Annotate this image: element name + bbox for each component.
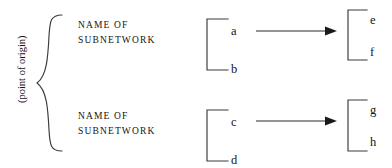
node-source-a: a — [231, 25, 237, 38]
subnetwork-2-name-line1: NAME OF — [78, 112, 129, 122]
arrow-bottom — [256, 117, 337, 126]
diagram-vector-layer — [0, 0, 392, 168]
node-source-c: c — [231, 116, 237, 129]
node-source-d: d — [231, 154, 237, 167]
node-target-f: f — [370, 46, 374, 59]
node-target-e: e — [370, 14, 376, 27]
bracket-target-top — [348, 10, 367, 60]
arrow-top — [256, 27, 337, 36]
point-of-origin-label: (point of origin) — [17, 9, 28, 129]
subnetwork-1-name-line2: SUBNETWORK — [78, 36, 155, 46]
node-target-h: h — [370, 136, 376, 149]
subnetwork-2-name-line2: SUBNETWORK — [78, 127, 155, 137]
origin-brace — [37, 15, 62, 151]
subnetwork-1-name-line1: NAME OF — [78, 21, 129, 31]
diagram-canvas: (point of origin) NAME OF SUBNETWORK NAM… — [0, 0, 392, 168]
node-source-b: b — [231, 63, 237, 76]
bracket-target-bottom — [348, 100, 367, 151]
node-target-g: g — [370, 104, 376, 117]
bracket-source-top — [207, 19, 228, 70]
bracket-source-bottom — [207, 110, 228, 161]
